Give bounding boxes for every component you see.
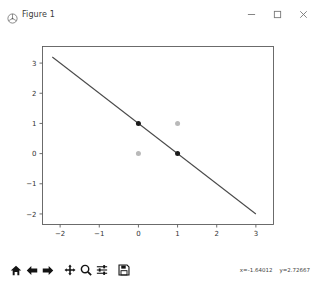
y-tick-label: −2: [26, 211, 36, 219]
data-point-marker: [136, 151, 141, 156]
y-tick-label: −1: [26, 180, 36, 188]
x-tick-label: −1: [94, 230, 104, 238]
axes-frame: [43, 47, 274, 225]
y-axis-ticks: −2−10123: [26, 60, 42, 219]
magnifier-icon[interactable]: [78, 262, 93, 279]
x-tick-label: 0: [136, 230, 140, 238]
forward-arrow-icon[interactable]: [40, 262, 55, 279]
window-titlebar: Figure 1: [0, 0, 316, 28]
figure-window: Figure 1: [0, 0, 316, 284]
y-tick-label: 2: [32, 90, 36, 98]
navigation-toolbar: x=-1.64012 y=2.72667: [0, 256, 316, 284]
matplotlib-icon: [7, 9, 18, 20]
y-tick-label: 3: [32, 60, 36, 68]
window-title: Figure 1: [22, 10, 55, 19]
floppy-disk-icon[interactable]: [116, 262, 131, 279]
x-tick-label: −2: [55, 230, 65, 238]
home-icon[interactable]: [8, 262, 23, 279]
window-controls: [238, 0, 316, 28]
cursor-x-value: x=-1.64012: [240, 267, 273, 273]
minimize-icon[interactable]: [238, 0, 264, 28]
y-tick-label: 1: [32, 120, 36, 128]
sliders-icon[interactable]: [94, 262, 109, 279]
cursor-coordinate-readout: x=-1.64012 y=2.72667: [240, 267, 310, 273]
data-point-marker: [175, 121, 180, 126]
x-tick-label: 2: [214, 230, 218, 238]
scatter-plot: −2−10123 −2−10123: [0, 28, 316, 256]
back-arrow-icon[interactable]: [24, 262, 39, 279]
x-axis-ticks: −2−10123: [55, 225, 258, 238]
data-point-marker: [175, 151, 180, 156]
close-icon[interactable]: [290, 0, 316, 28]
cursor-y-value: y=2.72667: [279, 267, 310, 273]
pan-move-icon[interactable]: [62, 262, 77, 279]
figure-canvas[interactable]: −2−10123 −2−10123: [0, 28, 316, 256]
y-tick-label: 0: [32, 150, 36, 158]
x-tick-label: 1: [175, 230, 179, 238]
data-point-marker: [136, 121, 141, 126]
x-tick-label: 3: [254, 230, 258, 238]
maximize-icon[interactable]: [264, 0, 290, 28]
